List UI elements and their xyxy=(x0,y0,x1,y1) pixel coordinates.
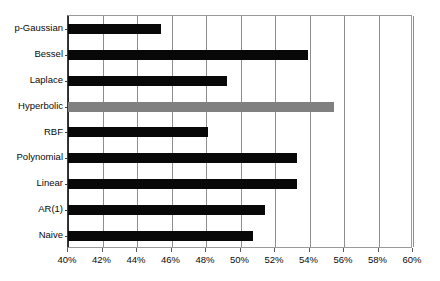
bar-chart: p-GaussianBesselLaplaceHyperbolicRBFPoly… xyxy=(0,0,440,281)
category-label-rbf: RBF xyxy=(0,127,63,137)
category-label-laplace: Laplace xyxy=(0,75,63,85)
plot-area xyxy=(67,15,412,248)
bar-row xyxy=(68,120,411,146)
x-axis-tick xyxy=(102,248,103,252)
category-axis-labels: p-GaussianBesselLaplaceHyperbolicRBFPoly… xyxy=(0,15,63,248)
gridline-60 xyxy=(413,16,414,247)
bar-row xyxy=(68,223,411,249)
bar-linear xyxy=(68,179,297,189)
bar-ar-1 xyxy=(68,205,265,215)
x-axis-tick xyxy=(171,248,172,252)
bar-row xyxy=(68,42,411,68)
category-label-naive: Naive xyxy=(0,230,63,240)
x-axis-tick xyxy=(136,248,137,252)
category-label-linear: Linear xyxy=(0,178,63,188)
x-axis-tick xyxy=(412,248,413,252)
x-axis-label-60pct: 60% xyxy=(390,254,434,265)
x-axis-tick xyxy=(343,248,344,252)
bar-laplace xyxy=(68,76,227,86)
bar-naive xyxy=(68,231,253,241)
bar-polynomial xyxy=(68,153,297,163)
bar-row xyxy=(68,171,411,197)
bar-row xyxy=(68,145,411,171)
category-label-bessel: Bessel xyxy=(0,49,63,59)
bar-row xyxy=(68,94,411,120)
x-axis-tick xyxy=(274,248,275,252)
category-label-hyperbolic: Hyperbolic xyxy=(0,101,63,111)
bar-row xyxy=(68,68,411,94)
x-axis-tick xyxy=(309,248,310,252)
bar-p-gaussian xyxy=(68,24,161,34)
x-axis-tick xyxy=(205,248,206,252)
x-axis-tick xyxy=(240,248,241,252)
category-label-ar-1: AR(1) xyxy=(0,204,63,214)
bar-bessel xyxy=(68,50,308,60)
bar-row xyxy=(68,16,411,42)
bar-rbf xyxy=(68,127,208,137)
category-label-p-gaussian: p-Gaussian xyxy=(0,23,63,33)
x-axis-tick xyxy=(67,248,68,252)
bar-series xyxy=(68,16,411,247)
x-axis-tick xyxy=(378,248,379,252)
bar-hyperbolic xyxy=(68,102,334,112)
category-label-polynomial: Polynomial xyxy=(0,152,63,162)
bar-row xyxy=(68,197,411,223)
